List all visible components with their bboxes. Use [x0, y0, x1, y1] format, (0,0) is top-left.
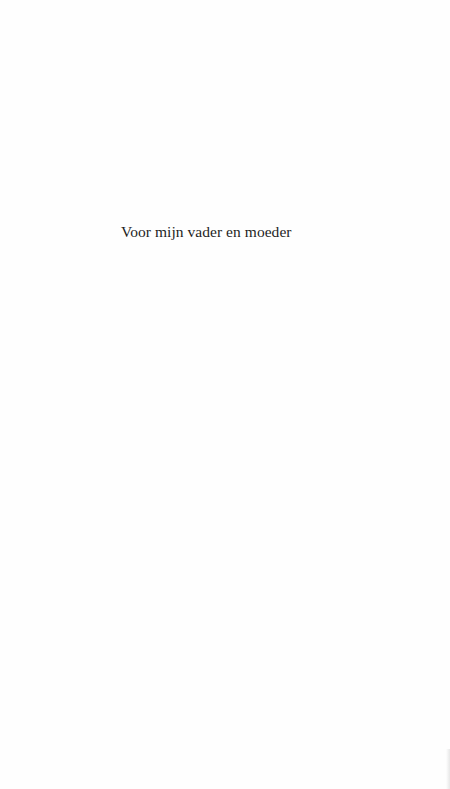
book-page: Voor mijn vader en moeder — [0, 0, 450, 789]
page-edge-shadow — [446, 749, 450, 789]
dedication-text: Voor mijn vader en moeder — [121, 223, 292, 241]
